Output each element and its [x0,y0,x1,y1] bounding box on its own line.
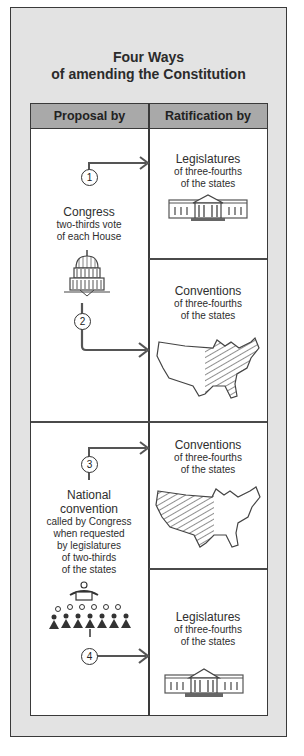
ratification-4-heading: Legislatures [149,610,267,624]
statehouse-icon [163,668,245,700]
ratification-4-line: of three-fourths [149,624,267,636]
ratification-3-heading: Conventions [149,438,267,452]
method-badge-4: 4 [81,648,98,665]
ratification-3-line: of the states [149,464,267,476]
ratification-3: Conventions of three-fourths of the stat… [149,438,267,476]
ratification-3-line: of three-fourths [149,452,267,464]
ratification-4-line: of the states [149,636,267,648]
us-map-icon [152,485,264,555]
ratification-4: Legislatures of three-fourths of the sta… [149,610,267,648]
